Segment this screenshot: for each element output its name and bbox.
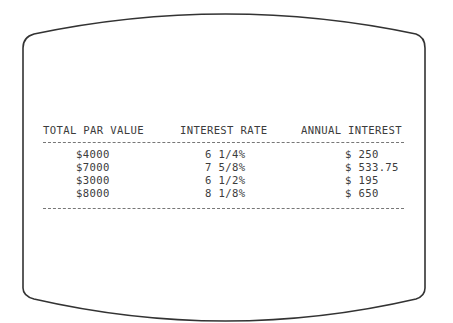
cell-annual-interest: $ 533.75 [345,161,399,173]
cell-par-value: $7000 [76,161,110,173]
cell-annual-interest: $ 250 [345,148,379,160]
cell-rate: 8 1/8% [205,187,245,199]
footer-divider [43,208,404,209]
cell-rate: 7 5/8% [205,161,245,173]
header-annual-interest: ANNUAL INTEREST [301,124,402,136]
cell-annual-interest: $ 195 [345,174,379,186]
cell-rate: 6 1/2% [205,174,245,186]
cell-rate: 6 1/4% [205,148,245,160]
header-divider [43,142,404,143]
cell-par-value: $4000 [76,148,110,160]
cell-par-value: $3000 [76,174,110,186]
cell-par-value: $8000 [76,187,110,199]
cell-annual-interest: $ 650 [345,187,379,199]
header-total-par-value: TOTAL PAR VALUE [43,124,144,136]
header-interest-rate: INTEREST RATE [180,124,267,136]
